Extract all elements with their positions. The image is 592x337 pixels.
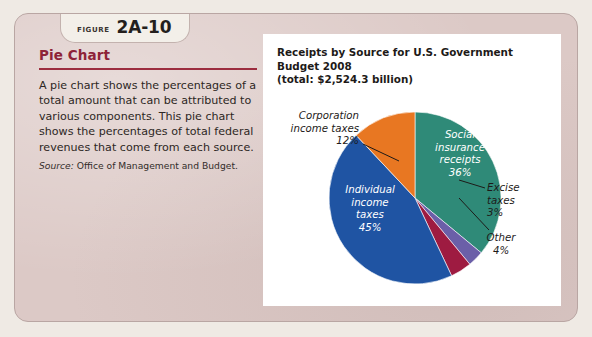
source-label: Source: xyxy=(39,160,74,171)
pie-label-social-insurance-receipts: Social insurance receipts 36% xyxy=(423,129,497,179)
pie-chart-svg xyxy=(263,34,561,306)
figure-panel: Figure 2A-10 Pie Chart A pie chart shows… xyxy=(14,13,578,322)
source-note: Source: Office of Management and Budget. xyxy=(39,160,257,172)
figure-label: Figure xyxy=(77,22,110,34)
description-paragraph: A pie chart shows the percentages of a t… xyxy=(39,78,257,155)
chart-card: Receipts by Source for U.S. Government B… xyxy=(263,34,561,306)
pie-label-corporation-income-taxes: Corporation income taxes 12% xyxy=(271,110,359,148)
page-title: Pie Chart xyxy=(39,47,257,63)
pie-chart: Social insurance receipts 36% Individual… xyxy=(263,34,561,306)
pie-label-excise-taxes: Excise taxes 3% xyxy=(487,182,547,220)
heading-divider xyxy=(39,68,257,70)
pie-label-individual-income-taxes: Individual income taxes 45% xyxy=(333,184,407,234)
pie-label-other: Other 4% xyxy=(475,232,527,257)
source-text: Office of Management and Budget. xyxy=(74,160,238,171)
figure-description-column: Pie Chart A pie chart shows the percenta… xyxy=(39,47,257,172)
figure-number-tab: Figure 2A-10 xyxy=(60,13,190,43)
figure-number: 2A-10 xyxy=(117,17,172,37)
